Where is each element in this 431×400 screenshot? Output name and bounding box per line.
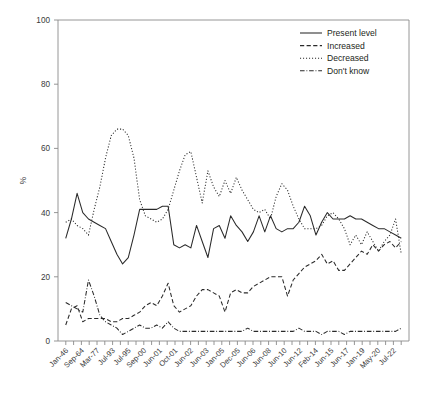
line-chart: 020406080100 Jan-46Sep-64Mar-77Jul-93Jul… [0,0,431,400]
y-tick-label: 60 [41,144,51,153]
legend-label: Don't know [327,66,370,76]
y-tick-label: 40 [41,209,51,218]
y-tick-label: 20 [41,273,51,282]
legend-label: Increased [327,41,365,51]
legend-label: Present level [327,28,377,38]
legend-label: Decreased [327,53,369,63]
y-axis-title: % [19,177,28,184]
chart-container: 020406080100 Jan-46Sep-64Mar-77Jul-93Jul… [0,0,431,400]
y-axis-title-text: % [19,177,28,184]
y-tick-label: 100 [36,16,50,25]
y-tick-label: 0 [45,337,50,346]
y-tick-label: 80 [41,80,51,89]
